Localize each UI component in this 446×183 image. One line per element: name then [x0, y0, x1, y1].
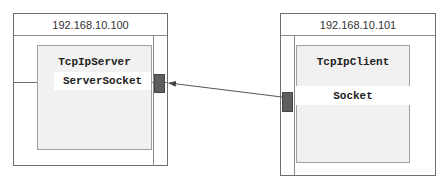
connection-arrow	[0, 0, 446, 183]
